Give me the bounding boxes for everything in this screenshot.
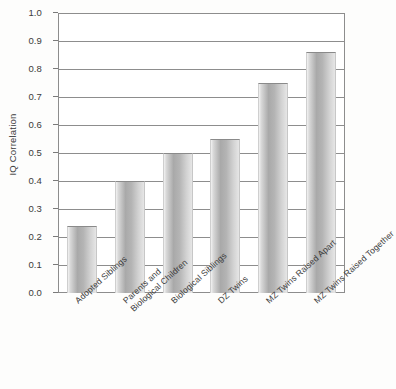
y-tick-label: 0.0 (12, 287, 42, 298)
bars-group (58, 13, 345, 293)
y-tick-label: 0.9 (12, 35, 42, 46)
bar[interactable] (115, 181, 145, 293)
y-tick-label: 0.8 (12, 63, 42, 74)
y-tick-label: 0.2 (12, 231, 42, 242)
y-tick-label: 0.6 (12, 119, 42, 130)
y-tick-label: 0.7 (12, 91, 42, 102)
y-tick-label: 0.4 (12, 175, 42, 186)
y-tick-label: 0.5 (12, 147, 42, 158)
bar[interactable] (258, 83, 288, 293)
y-tick-label: 0.1 (12, 259, 42, 270)
y-tick-label: 1.0 (12, 7, 42, 18)
y-tick-label: 0.3 (12, 203, 42, 214)
